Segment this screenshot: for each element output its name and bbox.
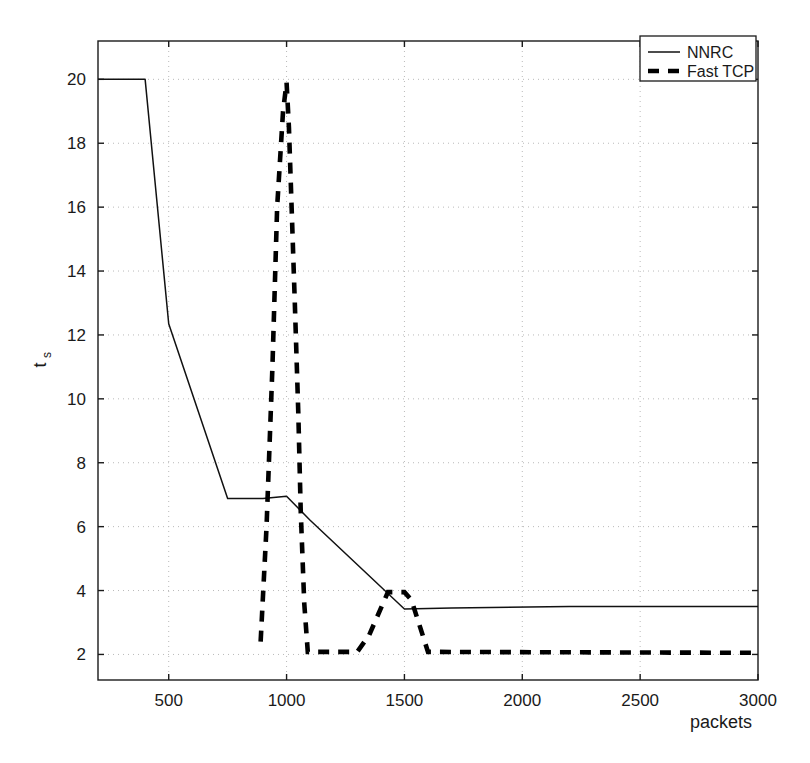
gridlines xyxy=(98,41,758,680)
x-tick-label: 2000 xyxy=(503,691,541,710)
x-tick-label: 3000 xyxy=(739,691,777,710)
y-tick-label: 12 xyxy=(67,326,86,345)
series-line-fast-tcp xyxy=(261,83,758,653)
x-axis-title: packets xyxy=(690,712,752,732)
y-axis-title-subscript: s xyxy=(40,352,54,358)
y-tick-label: 20 xyxy=(67,70,86,89)
series-line-nnrc xyxy=(98,79,758,609)
y-tick-label: 10 xyxy=(67,390,86,409)
y-tick-label: 16 xyxy=(67,198,86,217)
x-tick-label: 500 xyxy=(155,691,183,710)
y-tick-labels: 2468101214161820 xyxy=(67,70,86,664)
y-tick-label: 2 xyxy=(77,645,86,664)
y-axis-title: t s xyxy=(30,352,54,368)
line-chart: 50010001500200025003000 2468101214161820… xyxy=(0,0,810,763)
y-tick-label: 6 xyxy=(77,518,86,537)
x-tick-labels: 50010001500200025003000 xyxy=(155,691,777,710)
legend-label-fast-tcp: Fast TCP xyxy=(687,63,754,80)
plot-frame xyxy=(98,41,758,680)
x-tick-label: 2500 xyxy=(621,691,659,710)
legend-label-nnrc: NNRC xyxy=(687,44,733,61)
legend: NNRC Fast TCP xyxy=(640,36,756,81)
x-tick-label: 1000 xyxy=(268,691,306,710)
y-axis-title-base: t xyxy=(30,362,50,367)
y-tick-label: 8 xyxy=(77,454,86,473)
y-tick-label: 18 xyxy=(67,134,86,153)
y-tick-label: 14 xyxy=(67,262,86,281)
x-tick-label: 1500 xyxy=(386,691,424,710)
tick-marks xyxy=(98,41,758,680)
y-tick-label: 4 xyxy=(77,582,86,601)
chart-figure: 50010001500200025003000 2468101214161820… xyxy=(0,0,810,763)
